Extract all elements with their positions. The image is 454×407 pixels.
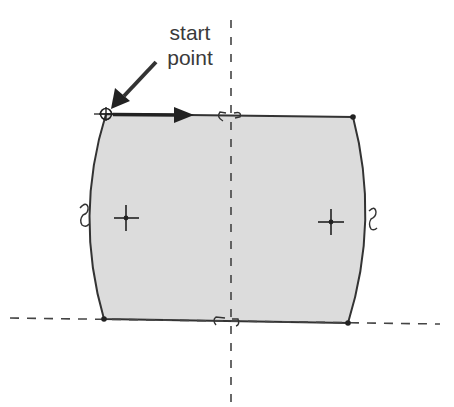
start-point-label-line2: point bbox=[160, 45, 220, 70]
sketch-diagram bbox=[0, 0, 454, 407]
start-point-label: start point bbox=[160, 20, 220, 70]
right-tangent-constraint-icon bbox=[369, 208, 377, 230]
vertex-bottom-right[interactable] bbox=[345, 320, 351, 326]
left-tangent-constraint-icon bbox=[80, 204, 89, 226]
pointer-arrow-icon bbox=[111, 62, 156, 109]
vertex-bottom-left[interactable] bbox=[101, 316, 107, 322]
start-point-label-line1: start bbox=[160, 20, 220, 45]
vertex-top-right[interactable] bbox=[350, 114, 356, 120]
